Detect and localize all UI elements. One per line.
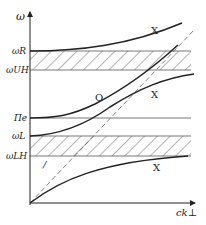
omega-LH-label: ωLH [6, 151, 27, 161]
o-mode-label: O [95, 92, 103, 103]
diagram-svg: ω ck⊥ ωR ωUH Πe ωL ωLH X O X X / [0, 0, 206, 225]
omega-UH-label: ωUH [6, 65, 29, 75]
omega-R-label: ωR [12, 46, 26, 56]
slope-marker: / [42, 159, 48, 170]
x-upper-label: X [151, 25, 159, 36]
x-mode-lower-curve [30, 156, 188, 203]
omega-L-label: ωL [12, 131, 25, 141]
x-middle-label: X [151, 89, 159, 100]
y-axis-label: ω [16, 10, 25, 23]
dispersion-diagram: ω ck⊥ ωR ωUH Πe ωL ωLH X O X X / [0, 0, 206, 225]
x-lower-label: X [153, 162, 161, 173]
x-mode-upper-curve [30, 23, 182, 51]
x-axis-label: ck⊥ [176, 207, 197, 218]
upper-stopband [30, 51, 191, 70]
Pi-e-label: Πe [13, 113, 27, 123]
lower-stopband [30, 136, 191, 156]
x-mode-middle-curve [30, 74, 194, 136]
